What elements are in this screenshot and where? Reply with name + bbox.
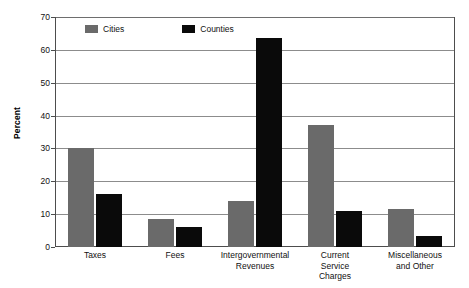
x-axis-label: Taxes: [55, 250, 135, 261]
x-axis-label: IntergovernmentalRevenues: [215, 250, 295, 271]
x-axis-label-line: and Other: [375, 261, 455, 272]
x-axis-label: Fees: [135, 250, 215, 261]
bar-counties-0: [96, 194, 122, 247]
y-tick-label: 40: [16, 111, 50, 121]
x-axis-label-line: Service: [295, 261, 375, 272]
y-tick-label: 30: [16, 143, 50, 153]
x-axis-label-line: Revenues: [215, 261, 295, 272]
legend-swatch-icon: [85, 25, 98, 33]
bar-counties-1: [176, 227, 202, 247]
bar-cities-3: [308, 125, 334, 247]
x-axis-labels: TaxesFeesIntergovernmentalRevenuesCurren…: [55, 250, 455, 288]
legend-label: Counties: [200, 24, 234, 34]
bar-cities-2: [228, 201, 254, 247]
y-tick-label: 50: [16, 78, 50, 88]
x-axis-label-line: Fees: [135, 250, 215, 261]
x-axis-label-line: Charges: [295, 271, 375, 282]
bar-counties-3: [336, 211, 362, 247]
bar-cities-4: [388, 209, 414, 247]
bar-cities-0: [68, 148, 94, 247]
x-axis-label: CurrentServiceCharges: [295, 250, 375, 282]
x-axis-label-line: Current: [295, 250, 375, 261]
x-axis-label: Miscellaneousand Other: [375, 250, 455, 271]
x-axis-label-line: Taxes: [55, 250, 135, 261]
y-tick-label: 0: [16, 242, 50, 252]
legend-entry-cities[interactable]: Cities: [85, 24, 124, 34]
bars-layer: [55, 17, 455, 247]
legend-swatch-icon: [182, 25, 195, 33]
bar-chart: Percent 706050403020100 TaxesFeesIntergo…: [0, 0, 469, 288]
y-tick-label: 70: [16, 12, 50, 22]
legend-label: Cities: [103, 24, 124, 34]
bar-counties-2: [256, 38, 282, 247]
y-tick-label: 60: [16, 45, 50, 55]
bar-cities-1: [148, 219, 174, 247]
x-axis-label-line: Intergovernmental: [215, 250, 295, 261]
legend-entry-counties[interactable]: Counties: [182, 24, 234, 34]
y-tick-label: 10: [16, 209, 50, 219]
y-tick-mark: [51, 247, 55, 248]
bar-counties-4: [416, 236, 442, 248]
y-tick-label: 20: [16, 176, 50, 186]
x-axis-label-line: Miscellaneous: [375, 250, 455, 261]
chart-legend: CitiesCounties: [85, 24, 234, 34]
